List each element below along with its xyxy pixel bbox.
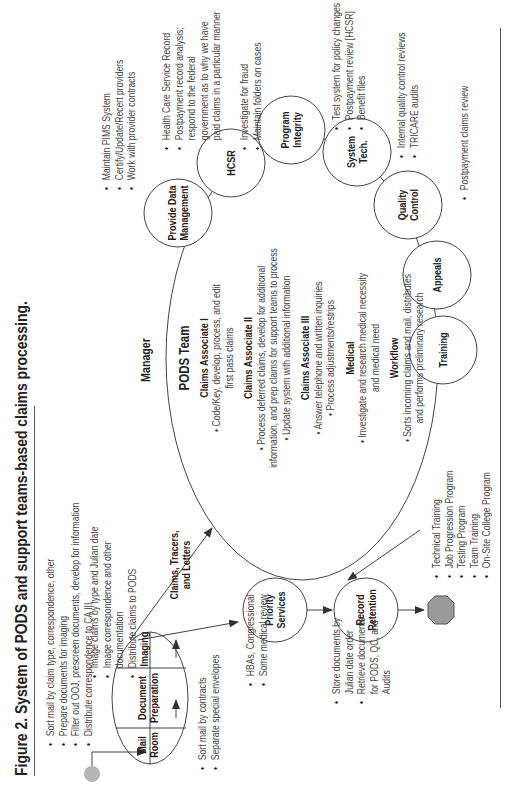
system-tech-notes: Test system for policy changes Postpayme… — [330, 3, 368, 130]
quality-control-label: QualityControl — [396, 176, 420, 233]
start-dot — [84, 766, 100, 782]
priority-services-notes: HBAs, Congressional Some medical review — [244, 594, 269, 686]
imaging-notes: Image claims by type and Julian date Ima… — [88, 526, 138, 678]
doc-prep-label: DocumentPreparation — [136, 672, 160, 724]
doc-prep-notes: Sort mail by claim type, correspondence,… — [44, 503, 94, 746]
appeals-notes: Postpayment claims review — [458, 86, 471, 200]
provide-data-management-label: Provide DataManagement — [166, 180, 190, 246]
hcsr-notes-list: Health Care Service Record Postpayment r… — [160, 11, 223, 150]
system-tech-label: SystemTech. — [345, 123, 369, 180]
quality-control-notes: Internal quality control reviews TRICARE… — [395, 32, 420, 158]
manager-label: Manager — [140, 319, 152, 401]
hcsr-label: HCSR — [225, 138, 237, 187]
flow-label: Claims, Tracers,and Letters — [168, 528, 192, 602]
appeals-label: Appeals — [431, 246, 443, 303]
provide-data-management-notes: Maintain PIMS System Certify/Update/Rece… — [100, 60, 138, 190]
program-integrity-notes: Investigate for fraud Maintain folders o… — [238, 43, 263, 150]
program-integrity-label: ProgramIntegrity — [279, 101, 303, 158]
training-notes: Technical Training Job Progression Progr… — [430, 471, 493, 578]
mail-room-label: MailRoom — [136, 730, 160, 760]
record-retention-notes: Store documents by Julian date order Ret… — [330, 618, 393, 704]
end-octagon — [428, 596, 454, 624]
training-label: Training — [437, 321, 449, 378]
imaging-label: Imaging — [138, 634, 150, 667]
figure-canvas: Figure 2. System of PODS and support tea… — [0, 0, 521, 790]
mail-room-notes: Sort mail by contracts Separate special … — [196, 654, 221, 770]
pods-team-content: PODS Team Claims Associate I • Code/Key,… — [178, 219, 426, 498]
